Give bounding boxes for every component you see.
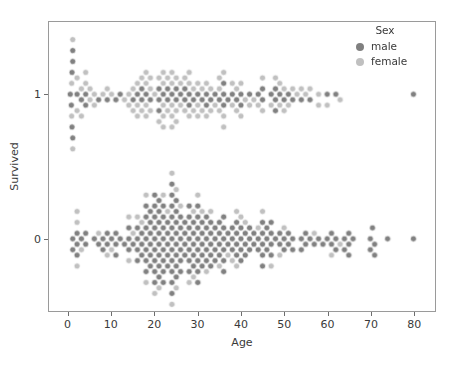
legend-item-female: female (352, 54, 432, 69)
y-axis-label-text: Survived (8, 142, 21, 190)
x-tick-mark (111, 312, 112, 316)
legend-swatch-female (356, 58, 364, 66)
x-tick-mark (414, 312, 415, 316)
x-tick-label: 50 (277, 318, 291, 331)
figure: Survived 0102030405060708001 Age Sex mal… (0, 0, 452, 365)
x-tick-label: 0 (64, 318, 71, 331)
y-tick-mark (44, 94, 48, 95)
x-axis-label-text: Age (231, 336, 252, 349)
x-tick-mark (68, 312, 69, 316)
x-tick-mark (371, 312, 372, 316)
x-tick-mark (328, 312, 329, 316)
x-tick-label: 60 (321, 318, 335, 331)
legend: Sex male female (352, 24, 432, 69)
legend-swatch-male (356, 43, 364, 51)
x-tick-label: 40 (234, 318, 248, 331)
y-tick-label: 1 (34, 87, 41, 100)
x-tick-mark (154, 312, 155, 316)
x-tick-mark (241, 312, 242, 316)
x-tick-label: 80 (407, 318, 421, 331)
y-tick-mark (44, 239, 48, 240)
legend-label-female: female (371, 56, 407, 67)
x-tick-mark (284, 312, 285, 316)
x-tick-label: 10 (104, 318, 118, 331)
legend-title: Sex (352, 24, 432, 36)
y-tick-label: 0 (34, 233, 41, 246)
x-tick-label: 70 (364, 318, 378, 331)
y-axis-label: Survived (2, 0, 26, 333)
x-axis-label: Age (48, 336, 436, 349)
legend-item-male: male (352, 39, 432, 54)
x-tick-label: 20 (147, 318, 161, 331)
x-tick-mark (198, 312, 199, 316)
legend-label-male: male (371, 41, 397, 52)
x-tick-label: 30 (191, 318, 205, 331)
